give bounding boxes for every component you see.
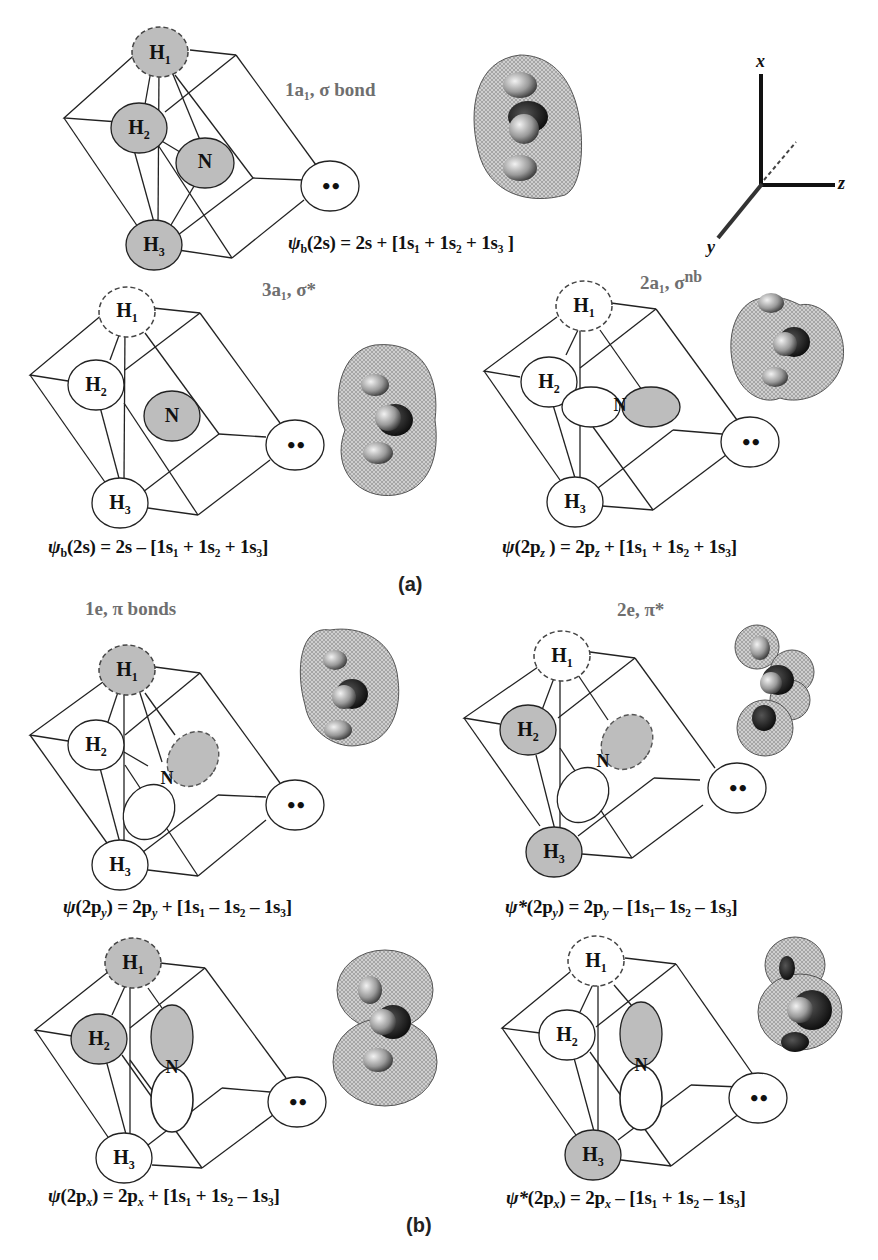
panel-1a1-title: 1a₁, σ bond [285,79,375,101]
panel-2e-py-atoms [500,631,766,877]
orbital-figure [0,0,878,1260]
panel-1a1-isosurface [474,55,582,199]
lone-pair-dots: •• [320,176,339,197]
atom-label-h1: H1 [116,299,138,322]
lone-pair-dots: •• [727,778,746,799]
panel-1e-py-atoms [68,645,324,890]
atom-label-h2: H2 [85,373,107,396]
panel-2e-py-title: 2e, π* [617,599,664,621]
lone-pair-dots: •• [285,795,304,816]
atom-label-h1: H1 [573,294,595,317]
atom-label-h2: H2 [538,370,560,393]
lone-pair-dots: •• [748,1088,767,1109]
orbital-n-lobe-left [562,387,620,427]
panel-2a1-equation: ψ(2pz ) = 2pz + [1s₁ + 1s₂ + 1s₃] [502,536,737,558]
panel-1e-px-isosurface [333,950,437,1106]
panel-1e-px-equation: ψ(2px) = 2px + [1s₁ + 1s₂ – 1s₃] [48,1185,280,1207]
panel-3a1-title: 3a₁, σ* [262,279,316,301]
panel-1e-px-diagram [35,963,286,1168]
atom-label-h3: H3 [564,490,586,513]
axis-label-z: z [838,173,845,194]
panel-2a1-isosurface [731,293,844,400]
panel-1e-py-diagram [30,667,280,876]
atom-label-h3: H3 [109,491,131,514]
panel-1e-py-isosurface [300,629,398,746]
atom-label-h2: H2 [517,718,539,741]
atom-label-h3: H3 [543,840,565,863]
panel-2e-py-equation: ψ*(2py) = 2py – [1s₁– 1s₂ – 1s₃] [505,896,737,918]
subfigure-label-b: (b) [406,1214,432,1237]
panel-2a1-title: 2a₁, σnb [640,268,702,294]
lone-pair-dots: •• [740,432,759,453]
atom-label-h1: H1 [585,949,607,972]
panel-2e-px-diagram [502,958,754,1166]
lone-pair-dots: •• [285,435,304,456]
atom-label-n: N [166,1057,179,1078]
atom-label-h1: H1 [551,644,573,667]
panel-1e-py-title: 1e, π bonds [85,598,176,620]
atom-label-h1: H1 [116,658,138,681]
atom-label-h3: H3 [143,233,165,256]
subfigure-label-a: (a) [398,573,422,596]
orbital-n-lobe-right [622,387,680,427]
panel-2e-px-atoms [539,936,787,1180]
panel-3a1-isosurface [338,345,436,496]
panel-2e-py-diagram [464,652,715,858]
atom-label-n: N [198,150,212,173]
panel-1a1-equation: ψb(2s) = 2s + [1s₁ + 1s₂ + 1s₃ ] [288,232,514,254]
atom-label-h2: H2 [85,733,107,756]
atom-label-n: N [597,751,610,772]
panel-3a1-atoms [68,287,324,528]
coordinate-axes-icon [718,74,835,238]
atom-label-h2: H2 [556,1023,578,1046]
panel-2e-px-equation: ψ*(2px) = 2px – [1s₁ + 1s₂ – 1s₃] [506,1187,746,1209]
atom-label-n: N [635,1055,648,1076]
atom-label-n: N [614,395,627,416]
atom-label-n: N [165,404,179,427]
atom-label-n: N [161,768,174,789]
axis-label-y: y [707,237,715,258]
panel-2e-py-isosurface [735,625,814,756]
atom-label-h3: H3 [109,853,131,876]
panel-2e-px-isosurface [758,937,842,1052]
atom-label-h1: H1 [149,41,171,64]
axis-label-x: x [756,51,765,72]
panel-3a1-equation: ψb(2s) = 2s – [1s₁ + 1s₂ + 1s₃] [48,536,268,558]
atom-label-h3: H3 [113,1146,135,1169]
atom-label-h3: H3 [582,1143,604,1166]
panel-1e-px-atoms [71,938,326,1183]
atom-label-h2: H2 [128,116,150,139]
lone-pair-dots: •• [287,1092,306,1113]
panel-1e-py-equation: ψ(2py) = 2py + [1s₁ – 1s₂ – 1s₃] [63,896,292,918]
atom-label-h1: H1 [122,951,144,974]
atom-label-h2: H2 [88,1027,110,1050]
